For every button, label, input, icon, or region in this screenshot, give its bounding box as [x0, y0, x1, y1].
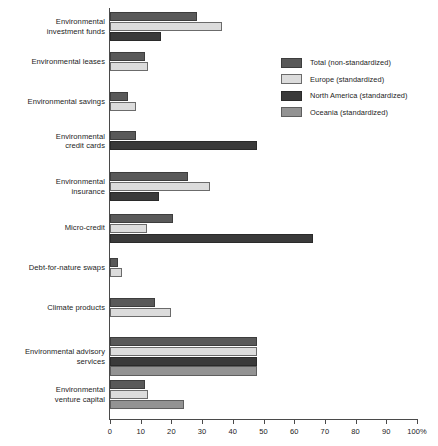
bar — [110, 366, 257, 375]
category-label: Environmental leases — [4, 57, 105, 67]
x-tick-label: 100% — [407, 427, 427, 436]
category-label-line: insurance — [4, 186, 105, 196]
x-tick-label: 90 — [382, 427, 391, 436]
legend-item: North America (standardized) — [281, 89, 408, 102]
category-label-line: Environmental savings — [4, 97, 105, 107]
category-label: Micro-credit — [4, 224, 105, 234]
bar — [110, 390, 148, 399]
bar — [110, 268, 122, 277]
bar — [110, 298, 155, 307]
bar — [110, 12, 197, 21]
x-tick-label: 50 — [259, 427, 268, 436]
bar — [110, 62, 148, 71]
category-label: Debt-for-nature swaps — [4, 263, 105, 273]
x-tick — [110, 419, 111, 424]
bar — [110, 172, 188, 181]
x-tick — [417, 419, 418, 424]
bar — [110, 182, 210, 191]
x-tick — [356, 419, 357, 424]
bar — [110, 308, 171, 317]
bar — [110, 347, 257, 356]
bar — [110, 400, 184, 409]
category-label-line: Environmental — [4, 17, 105, 27]
category-label-line: Environmental leases — [4, 57, 105, 67]
legend-item: Oceania (standardized) — [281, 106, 408, 119]
bar — [110, 32, 161, 41]
x-tick-label: 80 — [351, 427, 360, 436]
legend-swatch-icon — [281, 58, 302, 68]
x-tick-label: 40 — [229, 427, 238, 436]
category-label-line: credit cards — [4, 141, 105, 151]
x-tick-label: 20 — [167, 427, 176, 436]
legend-item: Total (non-standardized) — [281, 56, 408, 69]
bar — [110, 337, 257, 346]
bar — [110, 192, 159, 201]
x-tick — [202, 419, 203, 424]
bar — [110, 258, 118, 267]
legend-swatch-icon — [281, 107, 302, 117]
bar — [110, 380, 145, 389]
category-label: Climate products — [4, 303, 105, 313]
bar — [110, 22, 222, 31]
category-label-line: Climate products — [4, 303, 105, 313]
legend-label: North America (standardized) — [310, 91, 408, 100]
bar — [110, 357, 257, 366]
x-tick — [264, 419, 265, 424]
legend-item: Europe (standardized) — [281, 73, 408, 86]
category-label-line: Micro-credit — [4, 224, 105, 234]
bar-chart: 0102030405060708090100% Environmentalinv… — [0, 0, 438, 446]
category-label: Environmental advisoryservices — [4, 347, 105, 366]
category-label-line: Debt-for-nature swaps — [4, 263, 105, 273]
x-tick-label: 10 — [136, 427, 145, 436]
bar — [110, 214, 173, 223]
category-label: Environmentalinsurance — [4, 177, 105, 196]
category-label-line: investment funds — [4, 26, 105, 36]
legend-swatch-icon — [281, 91, 302, 101]
category-label-line: Environmental advisory — [4, 347, 105, 357]
bar — [110, 102, 136, 111]
bar — [110, 234, 313, 243]
category-label-line: Environmental — [4, 385, 105, 395]
x-tick-label: 70 — [321, 427, 330, 436]
category-label: Environmental savings — [4, 97, 105, 107]
category-label-line: Environmental — [4, 177, 105, 187]
category-label: Environmentalcredit cards — [4, 131, 105, 150]
category-label-line: services — [4, 356, 105, 366]
x-tick — [141, 419, 142, 424]
legend-label: Total (non-standardized) — [310, 58, 391, 67]
x-tick — [233, 419, 234, 424]
category-label: Environmentalventure capital — [4, 385, 105, 404]
bar — [110, 131, 136, 140]
x-tick-label: 60 — [290, 427, 299, 436]
bar — [110, 92, 128, 101]
category-label-line: venture capital — [4, 394, 105, 404]
chart-legend: Total (non-standardized)Europe (standard… — [281, 56, 408, 122]
bar — [110, 52, 145, 61]
legend-label: Oceania (standardized) — [310, 108, 388, 117]
bar — [110, 224, 147, 233]
x-tick — [294, 419, 295, 424]
x-tick-label: 30 — [198, 427, 207, 436]
legend-swatch-icon — [281, 74, 302, 84]
bar — [110, 141, 257, 150]
category-label: Environmentalinvestment funds — [4, 17, 105, 36]
x-tick — [171, 419, 172, 424]
legend-label: Europe (standardized) — [310, 75, 384, 84]
x-tick — [386, 419, 387, 424]
category-label-line: Environmental — [4, 131, 105, 141]
x-tick — [325, 419, 326, 424]
x-tick-label: 0 — [108, 427, 112, 436]
